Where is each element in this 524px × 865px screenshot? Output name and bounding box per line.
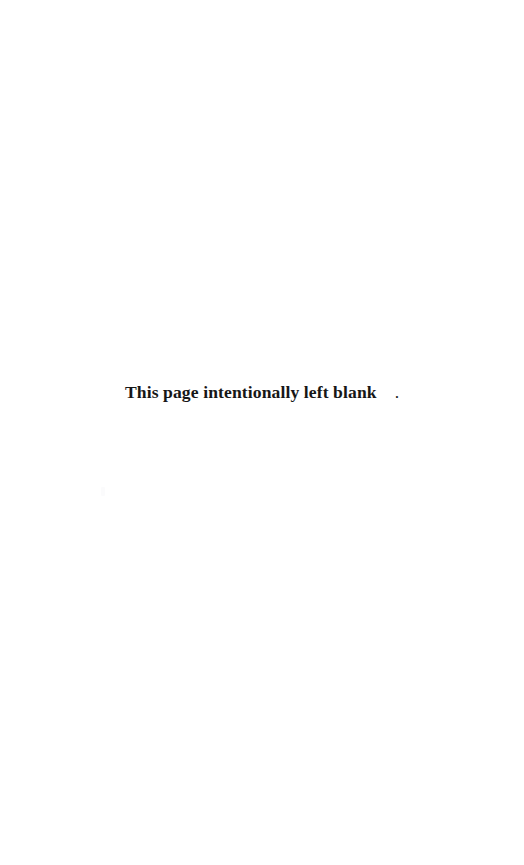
intentionally-blank-notice: This page intentionally left blank.	[0, 384, 524, 402]
intentionally-blank-notice-text: This page intentionally left blank	[125, 382, 377, 402]
blank-page-canvas: This page intentionally left blank.	[0, 0, 524, 865]
scan-artifact-speck	[101, 487, 105, 496]
intentionally-blank-notice-period: .	[395, 382, 399, 402]
